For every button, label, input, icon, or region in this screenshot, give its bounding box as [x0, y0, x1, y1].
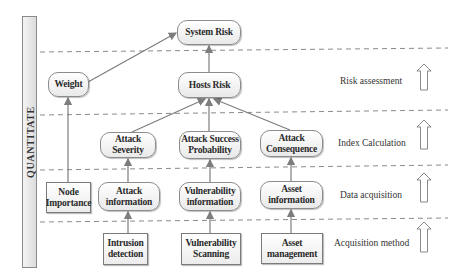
node-attack-consequence: Attack Consequence	[260, 130, 323, 157]
side-bar-label: QUANTITATE	[24, 106, 35, 178]
node-asset-management: Asset management	[261, 233, 323, 264]
edge-attack-severity-to-hosts-risk	[132, 99, 205, 132]
up-arrow-icon	[417, 64, 431, 90]
node-weight: Weight	[48, 72, 89, 97]
layer-label-data-acquisition: Data acquisition	[340, 190, 402, 200]
node-asset-information: Asset information	[260, 181, 323, 209]
node-node-importance: Node Importance	[46, 182, 91, 213]
node-attack-success-probability: Attack Success Probability	[179, 131, 241, 159]
node-intrusion-detection: Intrusion detection	[103, 233, 148, 265]
node-attack-information: Attack information	[98, 182, 160, 211]
node-vulnerability-information: Vulnerability information	[179, 182, 241, 211]
quantitative-risk-diagram: QUANTITATE System Risk Hosts Risk Weight…	[0, 0, 469, 279]
layer-label-acquisition-method: Acquisition method	[334, 238, 409, 248]
up-arrow-icon	[417, 222, 431, 252]
node-attack-severity: Attack Severity	[100, 132, 156, 158]
up-arrow-icon	[417, 120, 431, 149]
edge-attack-consequence-to-hosts-risk	[214, 99, 290, 130]
layer-divider	[40, 48, 448, 52]
node-system-risk: System Risk	[177, 20, 241, 45]
layer-divider	[40, 165, 448, 170]
layer-label-risk-assessment: Risk assessment	[340, 76, 402, 86]
quantitate-side-bar: QUANTITATE	[22, 16, 37, 268]
layer-divider	[40, 218, 448, 222]
edge-weight-to-system-risk	[88, 33, 176, 82]
node-hosts-risk: Hosts Risk	[178, 72, 241, 98]
layer-label-index-calculation: Index Calculation	[338, 138, 406, 148]
up-arrow-icon	[417, 173, 431, 202]
node-vulnerability-scanning: Vulnerability Scanning	[181, 233, 241, 265]
